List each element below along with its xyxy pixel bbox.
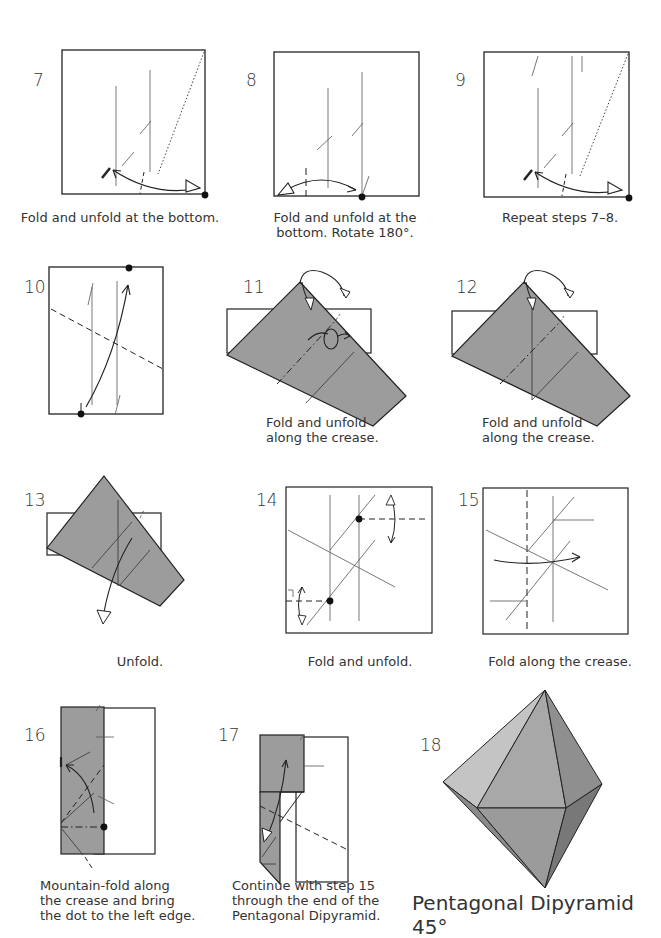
step-caption: Fold and unfold along the crease. <box>482 415 632 445</box>
step-number: 14 <box>256 490 278 510</box>
step-10-diagram <box>48 265 218 420</box>
step-17-diagram <box>252 712 352 872</box>
step-caption: Fold and unfold along the crease. <box>266 415 416 445</box>
step-number: 18 <box>420 735 442 755</box>
step-number: 10 <box>24 277 46 297</box>
model-title: Pentagonal Dipyramid 45° <box>412 891 661 938</box>
step-13-diagram <box>46 470 246 640</box>
step-number: 16 <box>24 725 46 745</box>
step-caption: Continue with step 15 through the end of… <box>232 878 402 923</box>
step-number: 8 <box>246 70 257 90</box>
step-number: 15 <box>458 490 480 510</box>
step-caption: Unfold. <box>80 654 200 669</box>
step-number: 13 <box>24 490 46 510</box>
step-7-diagram <box>60 48 220 208</box>
step-16-diagram <box>58 705 158 875</box>
step-number: 17 <box>218 725 240 745</box>
step-number: 9 <box>455 70 466 90</box>
turn-over-icon <box>306 322 356 352</box>
step-15-diagram <box>482 486 642 641</box>
step-9-diagram <box>482 50 642 210</box>
step-caption: Fold and unfold at the bottom. Rotate 18… <box>250 210 440 240</box>
step-caption: Fold along the crease. <box>470 654 650 669</box>
dipyramid-model <box>440 688 640 898</box>
step-number: 7 <box>33 70 44 90</box>
step-caption: Mountain-fold along the crease and bring… <box>40 878 200 923</box>
step-caption: Repeat steps 7–8. <box>470 210 650 225</box>
step-12-diagram <box>450 262 660 432</box>
step-caption: Fold and unfold. <box>270 654 450 669</box>
step-8-diagram <box>272 50 432 210</box>
step-caption: Fold and unfold at the bottom. <box>20 210 220 225</box>
step-14-diagram <box>285 485 445 640</box>
